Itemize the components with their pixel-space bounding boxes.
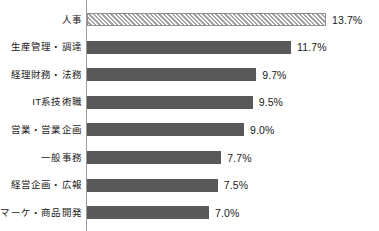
- bar-row: 人事13.7%: [0, 13, 379, 26]
- bar: [87, 123, 244, 136]
- bar-highlighted: [87, 13, 326, 26]
- bar-row: 経営企画・広報7.5%: [0, 179, 379, 192]
- bar-row: 生産管理・調達11.7%: [0, 41, 379, 54]
- bar-wrapper: [87, 13, 326, 26]
- category-label: 経理財務・法務: [0, 69, 82, 80]
- bar-wrapper: [87, 151, 221, 164]
- bar-wrapper: [87, 96, 253, 109]
- category-label: 人事: [0, 14, 82, 25]
- category-label: 営業・営業企画: [0, 124, 82, 135]
- bar-chart: 人事13.7%生産管理・調達11.7%経理財務・法務9.7%IT系技術職9.5%…: [0, 0, 379, 231]
- bar: [87, 41, 291, 54]
- bar: [87, 68, 256, 81]
- bar-row: 営業・営業企画9.0%: [0, 123, 379, 136]
- bar: [87, 96, 253, 109]
- bar-row: マーケ・商品開発7.0%: [0, 206, 379, 219]
- bar-value-label: 7.0%: [215, 207, 239, 219]
- category-label: 一般事務: [0, 152, 82, 163]
- category-label: IT系技術職: [0, 97, 82, 108]
- bar-wrapper: [87, 123, 244, 136]
- bar-wrapper: [87, 68, 256, 81]
- bar-wrapper: [87, 41, 291, 54]
- bar-row: IT系技術職9.5%: [0, 96, 379, 109]
- bar-value-label: 7.7%: [227, 152, 251, 164]
- bar-wrapper: [87, 206, 209, 219]
- bar-value-label: 11.7%: [297, 41, 327, 53]
- category-label: 生産管理・調達: [0, 42, 82, 53]
- bar-wrapper: [87, 179, 218, 192]
- bar-value-label: 9.5%: [259, 96, 283, 108]
- bar: [87, 151, 221, 164]
- bar-row: 経理財務・法務9.7%: [0, 68, 379, 81]
- bar: [87, 206, 209, 219]
- bar-value-label: 9.0%: [250, 124, 274, 136]
- value-axis-line: [86, 0, 87, 231]
- bar-row: 一般事務7.7%: [0, 151, 379, 164]
- category-label: マーケ・商品開発: [0, 207, 82, 218]
- category-label: 経営企画・広報: [0, 180, 82, 191]
- bar-value-label: 7.5%: [224, 179, 248, 191]
- bar: [87, 179, 218, 192]
- bar-value-label: 9.7%: [262, 69, 286, 81]
- bar-value-label: 13.7%: [332, 14, 362, 26]
